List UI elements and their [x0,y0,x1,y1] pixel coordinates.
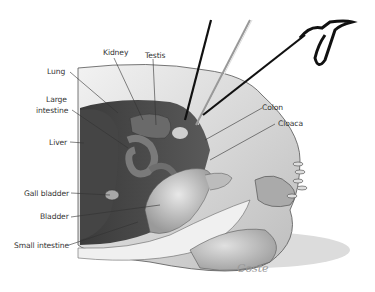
label-cloaca: Cloaca [278,119,303,128]
forceps-handle [300,21,352,65]
label-liver: Liver [49,138,67,147]
label-testis: Testis [145,51,165,60]
label-colon: Colon [262,103,283,112]
label-kidney: Kidney [103,48,128,57]
artist-signature: Coste [237,262,269,275]
label-small-intestine: Small intestine [14,241,69,250]
label-gall-bladder: Gall bladder [24,189,69,198]
label-large-intestine-line2: intestine [36,106,68,115]
label-large-intestine-line1: Large [46,95,67,104]
label-bladder: Bladder [40,212,69,221]
label-lung: Lung [47,67,65,76]
testis [172,127,188,139]
